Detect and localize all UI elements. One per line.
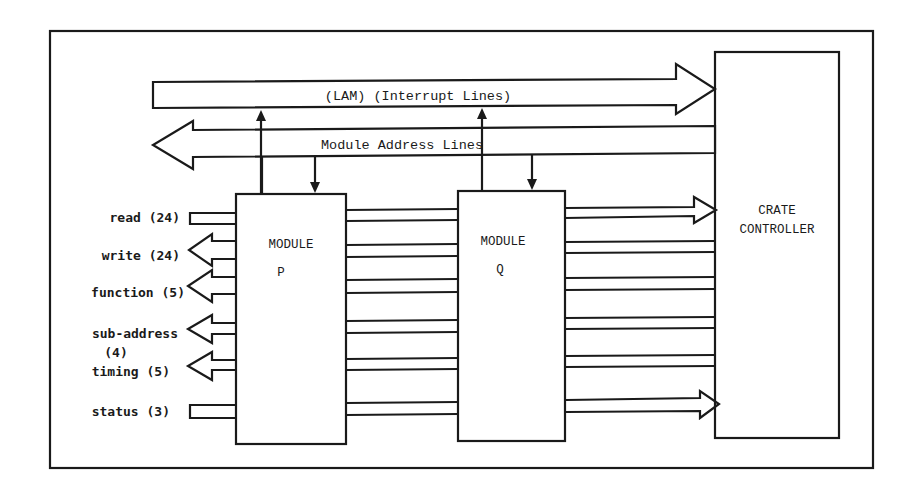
module-q-box	[458, 191, 565, 441]
write-signal-arrow	[189, 234, 236, 266]
timing-signal-arrow	[188, 352, 236, 380]
arrowhead-down-icon	[527, 179, 537, 190]
sub-address-signal-arrow	[188, 315, 236, 343]
controller-label-line1: CRATE	[758, 204, 796, 218]
function-signal-label: function (5)	[91, 285, 185, 300]
read-bus-arrow-to-controller	[565, 197, 716, 223]
write-signal-label: write (24)	[102, 248, 180, 263]
status-signal-bar	[190, 405, 236, 418]
arrowhead-up-icon	[256, 110, 266, 121]
crate-controller-box	[715, 52, 839, 438]
module-q-name: Q	[496, 263, 504, 277]
status-bus-arrow-to-controller	[566, 391, 719, 418]
module-p-name: P	[277, 266, 285, 280]
camac-dataway-diagram: CRATE CONTROLLER (LAM) (Interrupt Lines)…	[0, 0, 921, 490]
dataway-lines-p-q	[346, 209, 458, 415]
sub-address-signal-label: sub-address	[92, 326, 178, 341]
module-q-title: MODULE	[480, 235, 525, 249]
function-signal-arrow	[188, 270, 236, 302]
module-p-box	[236, 194, 346, 444]
dataway-lines-q-controller	[565, 241, 715, 367]
read-signal-bar	[190, 213, 236, 224]
sub-address-signal-count: (4)	[104, 345, 127, 360]
lam-bus-label: (LAM) (Interrupt Lines)	[325, 89, 511, 104]
module-p-title: MODULE	[268, 238, 313, 252]
controller-label-line2: CONTROLLER	[739, 223, 815, 237]
timing-signal-label: timing (5)	[92, 364, 170, 379]
arrowhead-down-icon	[310, 182, 320, 193]
address-bus-label: Module Address Lines	[321, 138, 483, 153]
status-signal-label: status (3)	[92, 404, 170, 419]
read-signal-label: read (24)	[110, 210, 180, 225]
arrowhead-up-icon	[477, 108, 487, 119]
